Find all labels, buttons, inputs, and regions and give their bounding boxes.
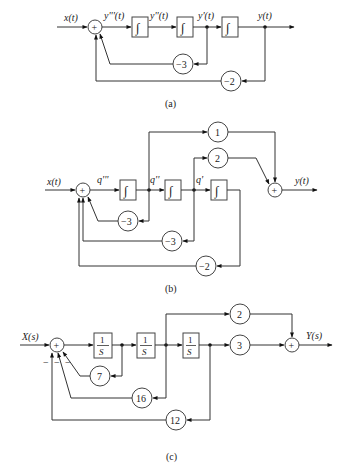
plus-icon: + bbox=[92, 22, 98, 33]
gain-circle: −3 bbox=[118, 211, 138, 231]
gain-circle: −2 bbox=[196, 256, 216, 276]
svg-text:+: + bbox=[272, 185, 278, 196]
integrator-block: ∫ bbox=[132, 17, 148, 37]
transfer-block-1-over-s: 1 S bbox=[183, 333, 199, 358]
gain-circle: 3 bbox=[230, 335, 250, 355]
integrator-block: ∫ bbox=[165, 180, 181, 200]
gain-circle: 2 bbox=[230, 304, 250, 324]
input-label-c: X(s) bbox=[21, 331, 39, 343]
integrator-block: ∫ bbox=[211, 180, 227, 200]
summer-b: + bbox=[76, 183, 90, 197]
block-diagrams-figure: x(t) + y'''(t) ∫ y''(t) ∫ y'(t) ∫ y(t) bbox=[0, 0, 343, 466]
caption-a: (a) bbox=[165, 98, 176, 110]
svg-text:1: 1 bbox=[215, 127, 220, 138]
signal-label: y'(t) bbox=[197, 10, 215, 22]
minus-sign: − bbox=[43, 357, 49, 368]
signal-label: y'''(t) bbox=[103, 10, 125, 22]
gain-circle: 12 bbox=[166, 410, 186, 430]
output-label-a: y(t) bbox=[257, 10, 273, 22]
gain-circle: 7 bbox=[90, 366, 110, 386]
svg-text:+: + bbox=[54, 340, 60, 351]
svg-text:1: 1 bbox=[188, 335, 193, 345]
minus-sign: − bbox=[54, 357, 60, 368]
signal-label: y''(t) bbox=[149, 10, 169, 22]
summer-c: + bbox=[50, 338, 64, 352]
svg-text:S: S bbox=[187, 347, 192, 357]
diagram-c: X(s) + − − − 1 S 1 S 1 S bbox=[20, 304, 332, 463]
input-label-a: x(t) bbox=[63, 12, 79, 24]
svg-text:−2: −2 bbox=[224, 76, 235, 87]
transfer-block-1-over-s: 1 S bbox=[137, 333, 155, 358]
transfer-block-1-over-s: 1 S bbox=[94, 333, 112, 358]
svg-text:2: 2 bbox=[215, 153, 220, 164]
input-label-b: x(t) bbox=[46, 176, 62, 188]
svg-text:+: + bbox=[289, 340, 295, 351]
summer-a: + bbox=[88, 20, 102, 34]
svg-text:S: S bbox=[142, 347, 147, 357]
signal-label: q' bbox=[196, 174, 204, 185]
svg-text:2: 2 bbox=[237, 309, 242, 320]
svg-text:−2: −2 bbox=[199, 261, 210, 272]
svg-text:+: + bbox=[80, 185, 86, 196]
svg-text:S: S bbox=[99, 347, 104, 357]
svg-text:−3: −3 bbox=[121, 216, 132, 227]
output-summer-b: + bbox=[268, 183, 282, 197]
output-label-b: y(t) bbox=[294, 175, 310, 187]
gain-circle: −2 bbox=[221, 71, 241, 91]
gain-circle: −3 bbox=[173, 54, 193, 74]
output-label-c: Y(s) bbox=[306, 330, 323, 342]
svg-text:1: 1 bbox=[100, 335, 105, 345]
output-summer-c: + bbox=[285, 338, 299, 352]
integrator-block: ∫ bbox=[222, 17, 238, 37]
gain-circle: 16 bbox=[132, 388, 152, 408]
svg-text:1: 1 bbox=[143, 335, 148, 345]
svg-text:12: 12 bbox=[170, 415, 180, 426]
gain-circle: −3 bbox=[162, 231, 182, 251]
gain-circle: 2 bbox=[208, 148, 228, 168]
gain-circle: 1 bbox=[208, 122, 228, 142]
integrator-block: ∫ bbox=[120, 180, 136, 200]
integrator-block: ∫ bbox=[177, 17, 193, 37]
signal-label: q'' bbox=[150, 174, 160, 185]
svg-text:−3: −3 bbox=[165, 236, 176, 247]
svg-text:−3: −3 bbox=[176, 59, 187, 70]
svg-text:16: 16 bbox=[136, 393, 146, 404]
signal-label: q''' bbox=[97, 174, 109, 185]
diagram-a: x(t) + y'''(t) ∫ y''(t) ∫ y'(t) ∫ y(t) bbox=[57, 10, 294, 110]
diagram-b: x(t) + q''' ∫ q'' ∫ q' ∫ 1 bbox=[45, 122, 317, 295]
caption-b: (b) bbox=[165, 283, 177, 295]
svg-text:3: 3 bbox=[237, 340, 242, 351]
svg-text:7: 7 bbox=[97, 371, 102, 382]
caption-c: (c) bbox=[166, 451, 177, 463]
